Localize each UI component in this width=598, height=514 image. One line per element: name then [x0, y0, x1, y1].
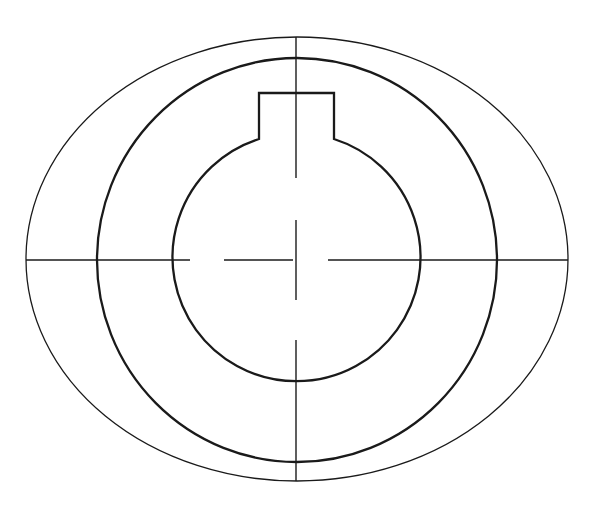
drawing-canvas — [0, 0, 598, 514]
outer-ellipse — [26, 37, 568, 481]
